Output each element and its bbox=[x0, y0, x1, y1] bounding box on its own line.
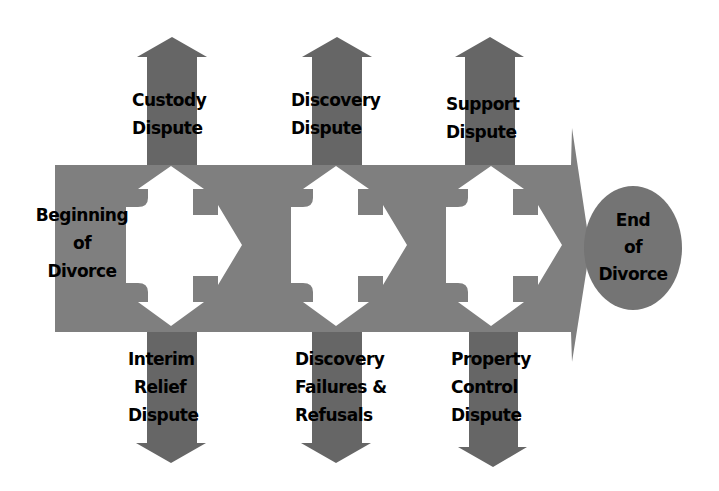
label-line: of bbox=[588, 234, 678, 261]
label-line: Failures & bbox=[295, 373, 387, 401]
label-interim-relief-dispute: Interim Relief Dispute bbox=[128, 345, 199, 429]
label-line: Refusals bbox=[295, 401, 387, 429]
label-line: Dispute bbox=[128, 401, 199, 429]
label-line: Dispute bbox=[291, 114, 380, 142]
label-line: Discovery bbox=[291, 86, 380, 114]
label-line: End bbox=[588, 207, 678, 234]
label-line: Property bbox=[451, 345, 531, 373]
label-support-dispute: Support Dispute bbox=[446, 90, 519, 146]
label-line: Beginning bbox=[33, 201, 131, 229]
label-discovery-failures-refusals: Discovery Failures & Refusals bbox=[295, 345, 387, 429]
label-line: Discovery bbox=[295, 345, 387, 373]
label-beginning-of-divorce: Beginning of Divorce bbox=[33, 201, 131, 285]
label-line: Divorce bbox=[588, 261, 678, 288]
label-line: Support bbox=[446, 90, 519, 118]
label-end-of-divorce: End of Divorce bbox=[588, 207, 678, 288]
label-custody-dispute: Custody Dispute bbox=[132, 86, 206, 142]
label-line: Divorce bbox=[33, 257, 131, 285]
label-property-control-dispute: Property Control Dispute bbox=[451, 345, 531, 429]
label-line: of bbox=[33, 229, 131, 257]
label-line: Dispute bbox=[451, 401, 531, 429]
label-line: Dispute bbox=[132, 114, 206, 142]
label-line: Dispute bbox=[446, 118, 519, 146]
label-line: Interim bbox=[128, 345, 199, 373]
label-line: Control bbox=[451, 373, 531, 401]
label-discovery-dispute: Discovery Dispute bbox=[291, 86, 380, 142]
label-line: Relief bbox=[128, 373, 199, 401]
label-line: Custody bbox=[132, 86, 206, 114]
